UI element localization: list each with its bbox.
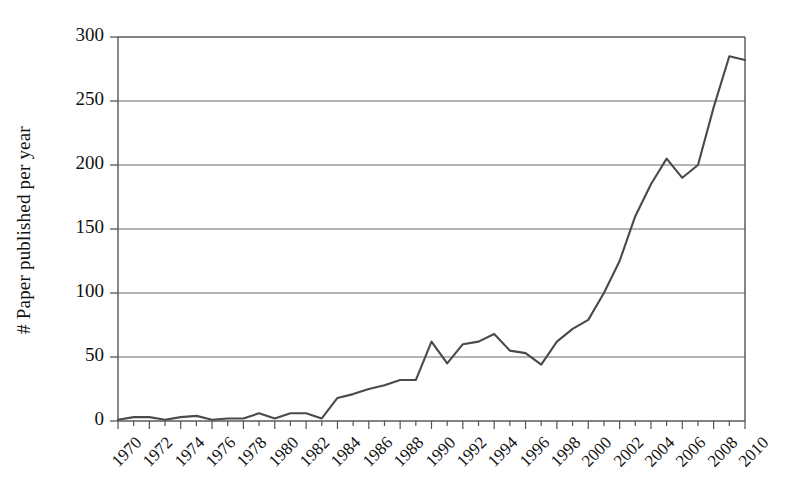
data-series-line <box>118 56 745 420</box>
line-chart-plot <box>0 0 793 501</box>
chart-figure: # Paper published per year 0501001502002… <box>0 0 793 501</box>
